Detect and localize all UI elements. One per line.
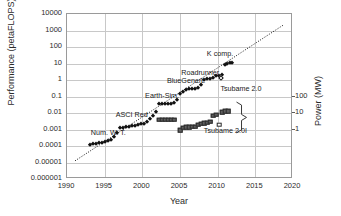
x-axis-tick-label: 2010 — [197, 181, 237, 190]
data-annotation-label: Tsubame 2.0 — [220, 84, 261, 93]
x-axis-tick-label: 2020 — [272, 181, 312, 190]
data-annotation-label: K comp. — [207, 49, 233, 58]
y-axis-right-tick-label: 10 — [295, 107, 317, 116]
y-axis-right-tick-label: 100 — [295, 91, 317, 100]
y-axis-right-tick-label: 1 — [295, 124, 317, 133]
gridline-horizontal — [67, 163, 291, 164]
y-axis-right-tick-mark — [292, 112, 295, 113]
gridline-horizontal — [67, 47, 291, 48]
data-annotation-label: Earth-Sim. — [145, 91, 179, 100]
data-annotation-label: Num. W. T. — [91, 128, 126, 137]
y-axis-left-tick-label: 1 — [2, 74, 62, 83]
y-axis-left-tick-label: 0.001 — [2, 124, 62, 133]
power-data-point — [226, 109, 231, 114]
gridline-horizontal — [67, 146, 291, 147]
y-axis-left-tick-label: 10 — [2, 58, 62, 67]
gridline-horizontal — [67, 113, 291, 114]
x-axis-title: Year — [66, 196, 292, 206]
x-axis-tick-label: 2005 — [159, 181, 199, 190]
y-axis-right-tick-mark — [292, 96, 295, 97]
data-annotation-label: Tsubame 2.0I — [204, 126, 247, 135]
gridline-vertical — [105, 14, 106, 177]
gridline-vertical — [255, 14, 256, 177]
y-axis-left-tick-label: 0.01 — [2, 107, 62, 116]
x-axis-tick-label: 2000 — [121, 181, 161, 190]
y-axis-left-tick-label: 1000 — [2, 25, 62, 34]
x-axis-tick-label: 2015 — [234, 181, 274, 190]
y-axis-left-tick-label: 10000 — [2, 8, 62, 17]
power-data-point — [208, 119, 213, 124]
y-axis-left-tick-label: 100 — [2, 41, 62, 50]
gridline-horizontal — [67, 31, 291, 32]
data-annotation-label: BlueGene/L — [167, 76, 205, 85]
y-axis-left-tick-label: 0.00001 — [2, 157, 62, 166]
power-data-point — [172, 117, 177, 122]
y-axis-left-tick-label: 0.1 — [2, 91, 62, 100]
gridline-vertical — [142, 14, 143, 177]
y-axis-left-tick-label: 0.0001 — [2, 140, 62, 149]
gridline-horizontal — [67, 64, 291, 65]
performance-power-chart: Performance (petaFLOPS) Power (MW) Year … — [0, 0, 341, 216]
x-axis-tick-label: 1995 — [84, 181, 124, 190]
x-axis-tick-label: 1990 — [46, 181, 86, 190]
data-annotation-label: Roadrunner — [181, 68, 219, 77]
y-axis-right-tick-mark — [292, 129, 295, 130]
data-annotation-label: ASCI Red — [116, 110, 148, 119]
power-data-point — [214, 112, 219, 117]
gridline-vertical — [218, 14, 219, 177]
